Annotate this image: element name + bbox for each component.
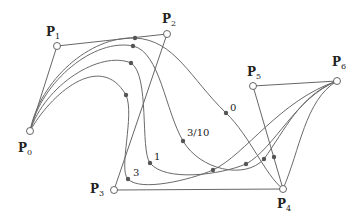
control-point-p4 (280, 186, 287, 193)
control-point-p1 (54, 43, 61, 50)
control-point-label-p1: P1 (46, 25, 60, 41)
control-point-label-p2: P2 (162, 12, 176, 28)
control-point-p2 (164, 31, 171, 38)
curve-point-marker (272, 155, 276, 159)
curve-parameter-label: 3/10 (187, 127, 209, 138)
control-point-p3 (111, 187, 118, 194)
curve-point-marker (126, 177, 130, 181)
curve-point-marker (129, 61, 133, 65)
control-point-label-p3: P3 (90, 182, 104, 198)
curve-point-marker (131, 44, 135, 48)
spline-diagram: 03/1013P0P1P2P3P4P5P6 (0, 0, 360, 216)
curve-weight-1 (30, 60, 337, 175)
control-point-p5 (250, 83, 257, 90)
curve-weight-0 (30, 38, 337, 189)
control-point-p0 (27, 128, 34, 135)
curve-point-marker (211, 168, 215, 172)
curve-point-marker (124, 93, 128, 97)
curve-point-marker (133, 36, 137, 40)
curve-parameter-label: 1 (154, 151, 160, 162)
control-point-label-p5: P5 (247, 65, 261, 81)
control-point-p6 (334, 78, 341, 85)
curve-parameter-label: 0 (230, 102, 236, 113)
curve-family (30, 38, 337, 189)
labels: 03/1013P0P1P2P3P4P5P6 (18, 12, 346, 213)
curve-point-marker (181, 139, 185, 143)
curve-weight-3-10 (30, 45, 337, 170)
control-point-label-p0: P0 (18, 141, 32, 157)
curve-point-marker (244, 162, 248, 166)
control-point-label-p6: P6 (332, 55, 346, 71)
curve-point-marker (224, 111, 228, 115)
curve-point-marker (148, 161, 152, 165)
curve-point-marker (262, 157, 266, 161)
curve-parameter-label: 3 (133, 167, 139, 178)
control-point-label-p4: P4 (277, 197, 291, 213)
control-points (27, 31, 341, 194)
